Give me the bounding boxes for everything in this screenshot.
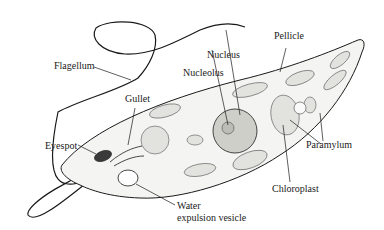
euglena-illustration [0, 0, 384, 230]
cell-body [61, 40, 364, 199]
label-expulsion-vesicle: expulsion vesicle [177, 212, 246, 223]
label-chloroplast: Chloroplast [272, 183, 319, 194]
label-nucleus: Nucleus [207, 49, 240, 60]
label-pellicle: Pellicle [274, 30, 304, 41]
euglena-diagram: Flagellum Nucleus Nucleolus Pellicle Gul… [0, 0, 384, 230]
label-gullet: Gullet [125, 93, 150, 104]
label-paramylum: Paramylum [306, 139, 352, 150]
nucleus [213, 109, 257, 153]
label-nucleolus: Nucleolus [183, 67, 224, 78]
paramylum-granule [294, 102, 306, 114]
label-water: Water [177, 200, 201, 211]
label-eyespot: Eyespot [45, 140, 77, 151]
label-flagellum: Flagellum [54, 60, 95, 71]
water-expulsion-vesicle [118, 170, 138, 186]
